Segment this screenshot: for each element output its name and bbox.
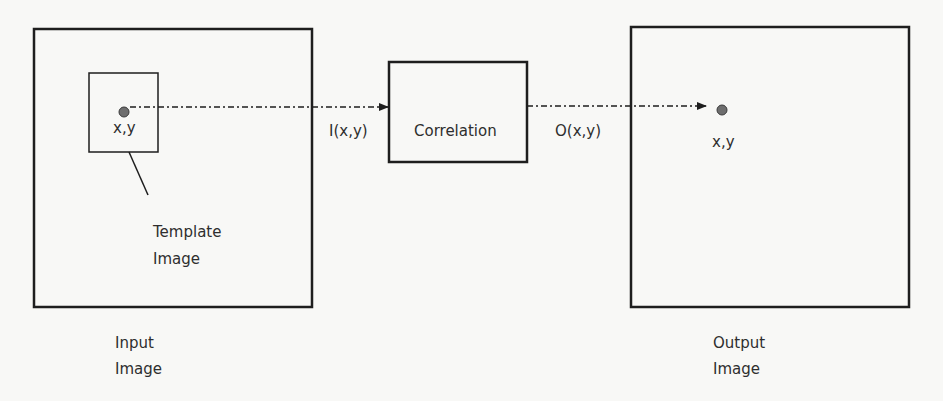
output-point-label: x,y [712, 133, 735, 151]
output-label-line2: Image [713, 360, 760, 378]
output-signal-label: O(x,y) [555, 122, 601, 140]
input-point-icon [119, 107, 129, 117]
correlation-box [389, 62, 527, 162]
correlation-label: Correlation [414, 122, 497, 140]
template-point-label: x,y [113, 119, 136, 137]
input-label-line1: Input [115, 334, 154, 352]
input-signal-label: I(x,y) [329, 122, 368, 140]
correlation-diagram: x,y Template Image I(x,y) Correlation O(… [0, 0, 943, 401]
template-label-line1: Template [152, 223, 221, 241]
output-label-line1: Output [713, 334, 765, 352]
output-point-icon [717, 105, 727, 115]
template-label-line2: Image [153, 250, 200, 268]
input-label-line2: Image [115, 360, 162, 378]
output-image-box [631, 27, 909, 307]
template-pointer-line [129, 152, 148, 195]
